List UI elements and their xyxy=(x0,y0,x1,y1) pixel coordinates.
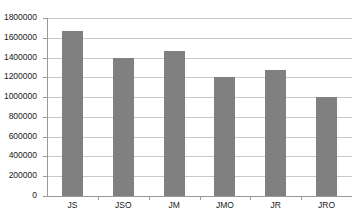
gridline xyxy=(47,18,352,19)
y-axis-tick xyxy=(43,156,47,157)
y-axis-tick xyxy=(43,97,47,98)
gridline xyxy=(47,38,352,39)
gridline xyxy=(47,58,352,59)
y-axis-tick xyxy=(43,137,47,138)
y-axis-tick xyxy=(43,176,47,177)
x-axis-tick-label: JMO xyxy=(216,201,234,210)
x-axis-tick-label: JSO xyxy=(115,201,132,210)
gridline xyxy=(47,137,352,138)
y-axis-tick-label: 1000000 xyxy=(0,92,42,101)
bar xyxy=(316,97,337,196)
y-axis-tick xyxy=(43,18,47,19)
x-axis-tick xyxy=(149,196,150,200)
y-axis-tick-label: 1200000 xyxy=(0,72,42,81)
y-axis-tick xyxy=(43,38,47,39)
gridline xyxy=(47,156,352,157)
bar-chart: 0200000400000600000800000100000012000001… xyxy=(0,0,355,223)
gridline xyxy=(47,176,352,177)
bar xyxy=(62,31,83,196)
plot-area xyxy=(47,18,352,196)
bar xyxy=(164,51,185,196)
x-axis-tick xyxy=(98,196,99,200)
x-axis-tick xyxy=(250,196,251,200)
y-axis-tick-label: 400000 xyxy=(0,151,42,160)
y-axis-line xyxy=(47,18,48,197)
x-axis-tick-label: JS xyxy=(67,201,77,210)
bar xyxy=(113,58,134,196)
x-axis-tick xyxy=(301,196,302,200)
y-axis-tick-label: 0 xyxy=(0,191,42,200)
gridline xyxy=(47,97,352,98)
y-axis-tick xyxy=(43,77,47,78)
x-axis-tick-label: JRO xyxy=(318,201,335,210)
y-axis-tick-label: 600000 xyxy=(0,132,42,141)
y-axis-tick xyxy=(43,117,47,118)
gridline xyxy=(47,77,352,78)
y-axis-tick-label: 1600000 xyxy=(0,33,42,42)
y-axis-tick-label: 800000 xyxy=(0,112,42,121)
bar xyxy=(214,77,235,196)
y-axis-tick-label: 1400000 xyxy=(0,53,42,62)
y-axis-tick-label: 1800000 xyxy=(0,13,42,22)
x-axis-tick-label: JM xyxy=(168,201,179,210)
y-axis-tick-label: 200000 xyxy=(0,171,42,180)
x-axis-tick-label: JR xyxy=(271,201,281,210)
y-axis-tick xyxy=(43,196,47,197)
gridline xyxy=(47,117,352,118)
bar xyxy=(265,70,286,196)
x-axis-tick xyxy=(200,196,201,200)
y-axis-tick xyxy=(43,58,47,59)
